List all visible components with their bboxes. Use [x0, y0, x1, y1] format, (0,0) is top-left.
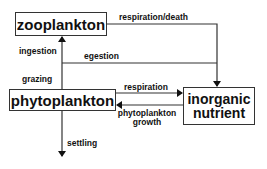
- node-inorganic-nutrient: inorganic nutrient: [183, 87, 255, 125]
- label-ingestion: ingestion: [19, 47, 57, 56]
- label-grazing: grazing: [22, 75, 52, 84]
- node-nutrient-label-line2: nutrient: [187, 106, 250, 120]
- node-nutrient-label-line1: inorganic: [187, 92, 250, 106]
- label-respiration: respiration: [124, 83, 168, 92]
- node-zooplankton: zooplankton: [15, 12, 107, 36]
- label-respiration-death: respiration/death: [119, 13, 188, 22]
- node-zooplankton-label: zooplankton: [17, 16, 105, 33]
- node-phytoplankton-label: phytoplankton: [11, 92, 114, 109]
- node-phytoplankton: phytoplankton: [9, 89, 116, 111]
- label-settling: settling: [67, 139, 97, 148]
- label-growth-line2: growth: [117, 118, 177, 127]
- edge-respiration-death: [107, 24, 217, 86]
- label-egestion: egestion: [84, 52, 119, 61]
